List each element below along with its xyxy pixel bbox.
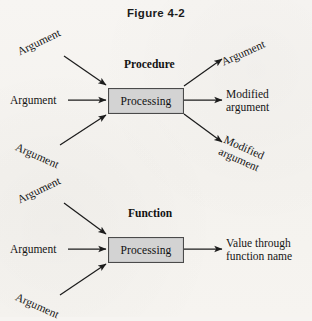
- procedure-output-label-middle-line1: Modified: [226, 88, 269, 101]
- function-processing-box: Processing: [108, 237, 184, 263]
- procedure-input-label-middle: Argument: [10, 94, 56, 107]
- function-output-label-line1: Value through: [226, 237, 292, 250]
- procedure-processing-label: Processing: [121, 95, 172, 107]
- procedure-output-label-middle-line2: argument: [226, 101, 269, 114]
- function-input-arrow-top: [64, 203, 106, 234]
- procedure-output-arrow-top: [184, 59, 222, 86]
- procedure-input-arrow-top: [64, 56, 106, 85]
- function-output-label: Value through function name: [226, 237, 292, 262]
- procedure-heading: Procedure: [124, 58, 175, 70]
- procedure-processing-box: Processing: [108, 88, 184, 114]
- function-heading: Function: [128, 207, 172, 219]
- procedure-input-arrow-bottom: [60, 115, 106, 145]
- function-input-label-middle: Argument: [10, 243, 56, 256]
- function-input-arrow-bottom: [60, 264, 106, 295]
- procedure-output-label-middle: Modified argument: [226, 88, 269, 113]
- procedure-output-arrow-bottom: [184, 114, 222, 142]
- function-output-label-line2: function name: [226, 250, 292, 263]
- function-processing-label: Processing: [121, 244, 172, 256]
